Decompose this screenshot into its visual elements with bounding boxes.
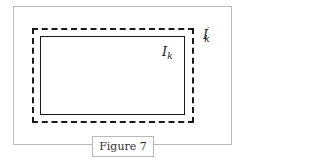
- figure-caption: Figure 7: [92, 136, 154, 157]
- label-ik: Ik: [162, 45, 173, 61]
- label-ik-prime: I′k: [203, 27, 210, 44]
